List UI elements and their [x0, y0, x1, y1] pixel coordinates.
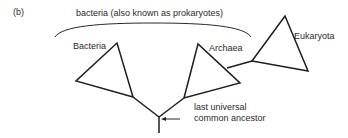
tree-diagram: (b) bacteria (also known as prokaryotes)… — [0, 0, 348, 138]
branch-bacteria — [133, 97, 159, 117]
root-label-line1: last universal — [194, 102, 247, 112]
clade-triangle-eukaryota — [252, 16, 308, 71]
arrow-head-icon — [161, 117, 166, 121]
branch-eukaryota — [227, 61, 252, 68]
branch-archaea — [159, 98, 184, 117]
root-label-line2: common ancestor — [194, 113, 266, 123]
clade-label-bacteria: Bacteria — [73, 41, 106, 51]
phylogenetic-tree-figure: (b) bacteria (also known as prokaryotes)… — [0, 0, 348, 138]
group-bracket-label: bacteria (also known as prokaryotes) — [76, 8, 223, 18]
clade-label-archaea: Archaea — [209, 43, 243, 53]
clade-triangle-bacteria — [76, 43, 133, 97]
panel-label: (b) — [13, 7, 24, 17]
prokaryote-bracket — [55, 23, 251, 37]
clade-label-eukaryota: Eukaryota — [294, 31, 335, 41]
